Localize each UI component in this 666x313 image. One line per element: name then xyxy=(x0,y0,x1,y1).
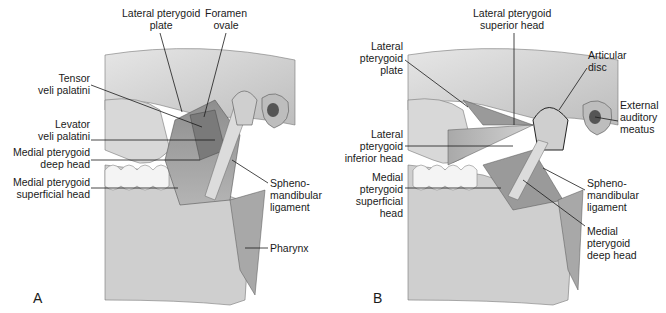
label-external-auditory-meatus: External auditory meatus xyxy=(620,99,659,135)
panel-letter-a: A xyxy=(33,290,42,306)
label-medial-pterygoid-deep-head: Medial pterygoid deep head xyxy=(0,146,90,170)
label-medial-pterygoid-superficial-head: Medial pterygoid superficial head xyxy=(0,176,90,200)
label-medial-pterygoid-deep-head-b: Medial pterygoid deep head xyxy=(587,225,637,261)
label-lateral-pterygoid-superior-head: Lateral pterygoid superior head xyxy=(473,7,551,31)
panel-b: Lateral pterygoid superior head Lateral … xyxy=(333,0,666,313)
label-tensor-veli-palatini: Tensor veli palatini xyxy=(20,72,90,96)
label-sphenomandibular-ligament: Spheno- mandibular ligament xyxy=(270,177,322,213)
label-lateral-pterygoid-plate: Lateral pterygoid plate xyxy=(122,7,200,31)
label-pharynx: Pharynx xyxy=(270,242,309,254)
label-lateral-pterygoid-inferior-head: Lateral pterygoid inferior head xyxy=(333,128,403,164)
label-articular-disc: Articular disc xyxy=(588,49,627,73)
label-medial-pterygoid-superficial-head-b: Medial pterygoid superficial head xyxy=(333,171,403,219)
panel-a: Lateral pterygoid plate Foramen ovale Te… xyxy=(0,0,333,313)
label-levator-veli-palatini: Levator veli palatini xyxy=(20,118,90,142)
label-lateral-pterygoid-plate-b: Lateral pterygoid plate xyxy=(333,40,403,76)
label-foramen-ovale: Foramen ovale xyxy=(205,7,247,31)
label-sphenomandibular-ligament-b: Spheno- mandibular ligament xyxy=(587,177,639,213)
panel-letter-b: B xyxy=(373,290,382,306)
